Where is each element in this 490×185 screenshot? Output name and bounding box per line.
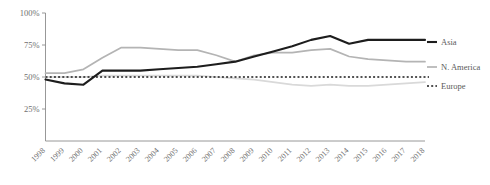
y-axis-tick-label: 25% <box>24 104 40 114</box>
x-axis-tick-label: 1999 <box>48 146 66 164</box>
x-axis-tick-label: 2008 <box>219 146 237 164</box>
series-lines <box>46 36 426 86</box>
x-axis-tick-label: 2004 <box>143 146 161 164</box>
legend-label-asia: Asia <box>441 37 457 47</box>
x-axis-tick-label: 1998 <box>29 146 47 164</box>
x-axis-tick-label: 2005 <box>162 146 180 164</box>
x-axis-tick-label: 2015 <box>352 146 370 164</box>
x-axis-tick-label: 2001 <box>86 146 104 164</box>
x-axis-tick-label: 2012 <box>295 146 313 164</box>
y-axis-tick-label: 75% <box>24 40 40 50</box>
chart-canvas: 100%75%50%25% 19981999200020012002200320… <box>0 0 490 185</box>
x-axis-tick-label: 2018 <box>409 146 427 164</box>
x-axis-tick-label: 2013 <box>314 146 332 164</box>
chart-legend: AsiaN. AmericaEurope <box>427 37 480 91</box>
y-axis-tick-label: 50% <box>24 72 40 82</box>
x-axis-tick-label: 2007 <box>200 146 218 164</box>
x-axis-tick-label: 2017 <box>390 146 408 164</box>
legend-label-europe: Europe <box>441 81 466 91</box>
x-axis-tick-label: 2002 <box>105 146 123 164</box>
x-axis-tick-label: 2014 <box>333 146 351 164</box>
x-axis-tick-label: 2010 <box>257 146 275 164</box>
x-axis-tick-label: 2016 <box>371 146 389 164</box>
x-axis-tick-label: 2011 <box>276 146 293 163</box>
series-line-n-america <box>46 48 426 74</box>
y-axis: 100%75%50%25% <box>20 8 46 141</box>
x-axis-tick-label: 2000 <box>67 146 85 164</box>
line-chart: 100%75%50%25% 19981999200020012002200320… <box>0 0 490 185</box>
y-axis-tick-label: 100% <box>20 8 40 18</box>
legend-label-n-america: N. America <box>441 62 480 72</box>
x-axis-tick-label: 2009 <box>238 146 256 164</box>
x-axis: 1998199920002001200220032004200520062007… <box>29 141 426 164</box>
x-axis-tick-label: 2006 <box>181 146 199 164</box>
x-axis-tick-label: 2003 <box>124 146 142 164</box>
